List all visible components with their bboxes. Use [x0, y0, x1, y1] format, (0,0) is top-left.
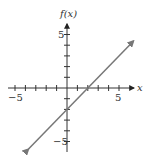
function-graph: f(x) x −5 5 5 −5	[0, 0, 148, 159]
y-tick-label-5: 5	[58, 29, 64, 40]
y-axis-label: f(x)	[59, 8, 77, 19]
x-tick-label-5: 5	[115, 92, 121, 103]
x-axis-label: x	[137, 82, 143, 93]
x-tick-label-neg5: −5	[8, 92, 23, 103]
y-tick-label-neg5: −5	[53, 136, 68, 147]
